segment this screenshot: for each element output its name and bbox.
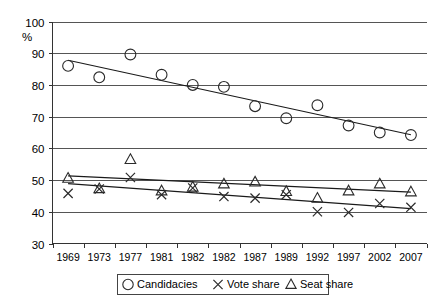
x-tick-label: 1989	[275, 251, 299, 263]
chart-legend: CandidaciesVote shareSeat share	[118, 275, 354, 295]
x-tick-label: 1969	[56, 251, 80, 263]
y-tick-label: 30	[32, 239, 45, 251]
x-tick-label: 1982	[181, 251, 205, 263]
y-axis-label: %	[22, 31, 32, 43]
y-tick-label: 90	[32, 48, 45, 60]
x-tick-label: 2007	[399, 251, 423, 263]
x-tick-label: 1992	[306, 251, 330, 263]
x-tick-label: 2002	[368, 251, 392, 263]
chart-container: 30405060708090100 % 19691973197719811982…	[0, 0, 444, 306]
legend-label: Seat share	[300, 278, 353, 290]
y-tick-label: 100	[25, 17, 44, 29]
legend-items: CandidaciesVote shareSeat share	[123, 278, 353, 290]
y-tick-label: 70	[32, 112, 45, 124]
legend-label: Candidacies	[137, 278, 198, 290]
x-tick-label: 1987	[243, 251, 267, 263]
scatter-chart: 30405060708090100 % 19691973197719811982…	[0, 0, 444, 306]
y-tick-label: 80	[32, 80, 45, 92]
y-tick-label: 40	[32, 207, 45, 219]
x-tick-label: 1973	[88, 251, 112, 263]
legend-label: Vote share	[227, 278, 280, 290]
y-tick-label: 60	[32, 143, 45, 155]
y-tick-label: 50	[32, 175, 45, 187]
x-tick-label: 1997	[337, 251, 361, 263]
x-tick-label: 1982	[212, 251, 236, 263]
x-tick-label: 1981	[150, 251, 174, 263]
x-tick-label: 1977	[119, 251, 143, 263]
